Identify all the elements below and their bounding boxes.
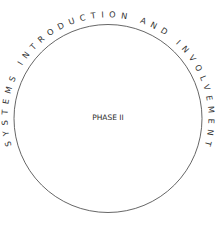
phase-label: PHASE II [92, 113, 124, 122]
arc-title-text: SYSTEMS INTRODUCTION AND INVOLVEMENT [0, 9, 216, 148]
arc-title: SYSTEMS INTRODUCTION AND INVOLVEMENT [0, 9, 216, 148]
phase-diagram: SYSTEMS INTRODUCTION AND INVOLVEMENT PHA… [0, 0, 216, 226]
